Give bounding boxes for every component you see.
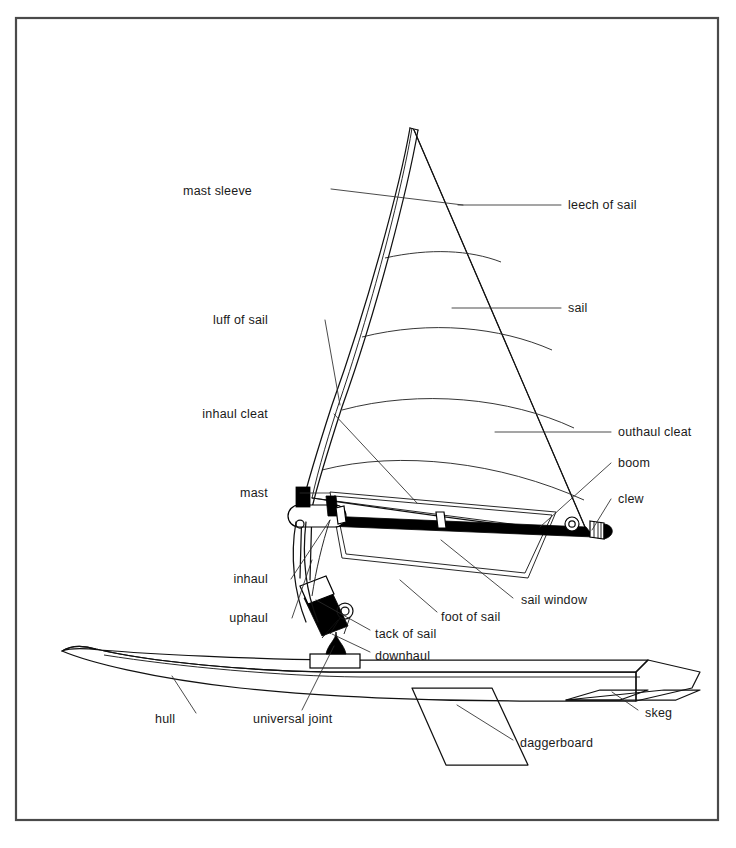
label-mast-sleeve: mast sleeve (183, 184, 252, 198)
leader-daggerboard (457, 705, 513, 740)
sail-window-inner (334, 496, 552, 573)
leader-foot-of-sail (400, 580, 437, 612)
universal-joint-hourglass (326, 632, 346, 654)
mast-sleeve-front-edge (302, 128, 410, 506)
sail-leech (414, 130, 588, 534)
windsurfer-anatomy-diagram: mast sleeve leech of sail luff of sail s… (0, 0, 736, 848)
mast-base-plate (310, 654, 360, 668)
label-outhaul-cleat: outhaul cleat (618, 425, 692, 439)
downhaul-pulley-hole (341, 607, 349, 615)
figure-root: mast sleeve leech of sail luff of sail s… (0, 0, 736, 848)
sail-seam-2 (362, 328, 552, 350)
sail-seam-3 (342, 399, 574, 428)
label-boom: boom (618, 456, 650, 470)
hull-deck-crease (104, 655, 640, 677)
label-foot-of-sail: foot of sail (441, 610, 500, 624)
label-hull: hull (155, 712, 175, 726)
label-clew: clew (618, 492, 645, 506)
board-group (62, 647, 700, 765)
hull-stern (636, 660, 700, 701)
sail-seam-1 (385, 252, 501, 262)
label-skeg: skeg (645, 706, 672, 720)
label-daggerboard: daggerboard (520, 736, 593, 750)
mast-collar-block (296, 487, 310, 507)
boom-mid-fitting (436, 512, 446, 528)
label-leech-of-sail: leech of sail (568, 198, 637, 212)
sail-panel (312, 128, 588, 534)
label-mast: mast (240, 486, 268, 500)
label-sail: sail (568, 301, 588, 315)
label-sail-window: sail window (521, 593, 588, 607)
label-inhaul: inhaul (233, 572, 268, 586)
label-tack-of-sail: tack of sail (375, 627, 436, 641)
inhaul-cleat-jaw (336, 506, 346, 524)
leader-luff (325, 320, 340, 405)
outhaul-cleat-pulley (565, 517, 579, 531)
label-uphaul: uphaul (229, 611, 268, 625)
label-inhaul-cleat: inhaul cleat (202, 407, 268, 421)
sail-seam-4 (322, 460, 584, 500)
leader-inhaul-cleat (334, 414, 417, 503)
mast-sleeve-back-edge (312, 130, 418, 508)
boom-end-cap (604, 524, 612, 539)
sail-group (312, 128, 588, 578)
label-downhaul: downhaul (375, 649, 430, 663)
label-luff-of-sail: luff of sail (213, 313, 268, 327)
label-universal-joint: universal joint (253, 712, 333, 726)
leader-sail-window (441, 540, 513, 598)
callout-labels-group: mast sleeve leech of sail luff of sail s… (155, 184, 692, 750)
boom-group (288, 487, 612, 539)
